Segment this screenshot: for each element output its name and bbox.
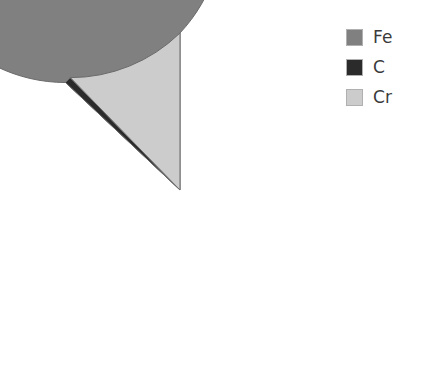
- legend-item-cr[interactable]: Cr: [346, 88, 422, 106]
- pie-chart-svg: [0, 0, 345, 370]
- pie-plot-area: [0, 0, 345, 370]
- legend-label-c: C: [373, 59, 385, 76]
- legend-item-c[interactable]: C: [346, 58, 422, 76]
- legend-item-fe[interactable]: Fe: [346, 28, 422, 46]
- legend-swatch-cr-icon: [346, 89, 363, 106]
- legend-swatch-fe-icon: [346, 29, 363, 46]
- pie-slice-group: [0, 0, 223, 190]
- pie-chart-figure: Fe C Cr: [0, 0, 422, 370]
- legend-label-fe: Fe: [373, 29, 393, 46]
- chart-legend: Fe C Cr: [346, 28, 422, 106]
- legend-label-cr: Cr: [373, 89, 392, 106]
- legend-swatch-c-icon: [346, 59, 363, 76]
